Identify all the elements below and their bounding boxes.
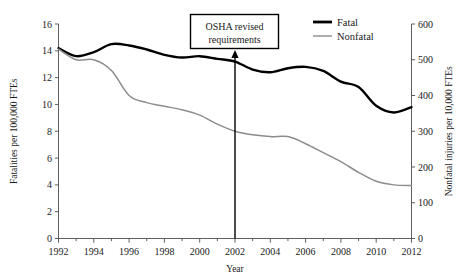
y-axis-title: Fatalities per 100,000 FTEs <box>9 78 19 184</box>
annotation-arrow-head <box>231 50 238 58</box>
left-axis-tick-label: 12 <box>42 72 52 83</box>
legend-label-fatal: Fatal <box>337 17 358 28</box>
x-axis-tick-label: 2000 <box>190 246 210 257</box>
x-axis-tick-label: 2010 <box>366 246 386 257</box>
axis-titles: YearFatalities per 100,000 FTEsNonfatal … <box>9 66 454 274</box>
left-axis-tick-label: 16 <box>42 19 52 30</box>
x-axis-tick-label: 1992 <box>49 246 69 257</box>
left-axis-tick-label: 2 <box>47 206 52 217</box>
left-axis-tick-label: 6 <box>47 153 52 164</box>
x-axis-tick-label: 2004 <box>260 246 280 257</box>
y2-axis-title: Nonfatal injuries per 10,000 FTEs <box>444 66 454 196</box>
right-axis-tick-label: 400 <box>418 90 433 101</box>
x-axis-tick-label: 1998 <box>154 246 174 257</box>
left-axis-tick-label: 0 <box>47 233 52 244</box>
right-axis: 0100200300400500600 <box>412 19 434 245</box>
left-axis-tick-label: 8 <box>47 126 52 137</box>
right-axis-tick-label: 0 <box>418 233 423 244</box>
x-axis-tick-label: 2012 <box>402 246 422 257</box>
x-axis-tick-label: 1994 <box>84 246 104 257</box>
x-axis-tick-label: 2002 <box>225 246 245 257</box>
right-axis-tick-label: 600 <box>418 19 433 30</box>
chart-figure: 0246810121416 0100200300400500600 199219… <box>0 0 465 276</box>
x-axis: 1992199419961998200020022004200620082010… <box>49 239 422 257</box>
x-axis-tick-label: 1996 <box>119 246 139 257</box>
line-chart: 0246810121416 0100200300400500600 199219… <box>0 0 465 276</box>
left-axis-tick-label: 10 <box>42 99 52 110</box>
legend-label-nonfatal: Nonfatal <box>337 31 374 42</box>
x-axis-title: Year <box>226 264 244 274</box>
right-axis-tick-label: 500 <box>418 54 433 65</box>
x-axis-tick-label: 2008 <box>331 246 351 257</box>
left-axis-tick-label: 14 <box>42 45 52 56</box>
annotation-group: OSHA revisedrequirements <box>191 15 279 239</box>
annotation-text-line: OSHA revised <box>205 21 263 32</box>
left-axis: 0246810121416 <box>42 19 59 245</box>
x-axis-tick-label: 2006 <box>296 246 316 257</box>
right-axis-tick-label: 100 <box>418 197 433 208</box>
annotation-text-line: requirements <box>208 34 260 45</box>
chart-legend: FatalNonfatal <box>313 17 374 42</box>
right-axis-tick-label: 300 <box>418 126 433 137</box>
left-axis-tick-label: 4 <box>47 179 52 190</box>
right-axis-tick-label: 200 <box>418 162 433 173</box>
